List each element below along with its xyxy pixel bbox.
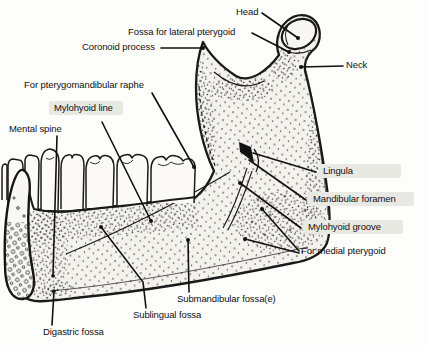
label-digastric-fossa: Digastric fossa (43, 327, 104, 337)
label-coronoid-process: Coronoid process (82, 42, 155, 52)
label-mandibular-foramen: Mandibular foramen (308, 192, 414, 206)
label-lingula: Lingula (318, 164, 401, 178)
label-neck: Neck (346, 60, 367, 70)
label-pterygomandibular-raphe: For pterygomandibular raphe (24, 80, 144, 90)
tooth-premolar-1 (61, 154, 84, 209)
label-for-medial-pterygoid: For medial pterygoid (301, 246, 386, 256)
tooth-molar-2 (151, 156, 195, 204)
leader-line-submandibular (188, 240, 189, 292)
label-sublingual-fossa: Sublingual fossa (133, 310, 201, 320)
label-mental-spine: Mental spine (9, 124, 62, 134)
leader-line-neck (301, 66, 343, 67)
label-mylohyoid-groove: Mylohyoid groove (303, 220, 403, 234)
label-head: Head (236, 7, 258, 17)
tooth-premolar-2 (86, 155, 114, 208)
tooth-incisor-partial (2, 164, 7, 200)
label-submandibular-fossa: Submandibular fossa(e) (177, 294, 276, 304)
label-mylohyoid-line: Mylohyoid line (49, 101, 123, 115)
anatomy-figure-page: Head Fossa for lateral pterygoid Coronoi… (0, 0, 430, 346)
label-fossa-lateral-pterygoid: Fossa for lateral pterygoid (128, 27, 235, 37)
